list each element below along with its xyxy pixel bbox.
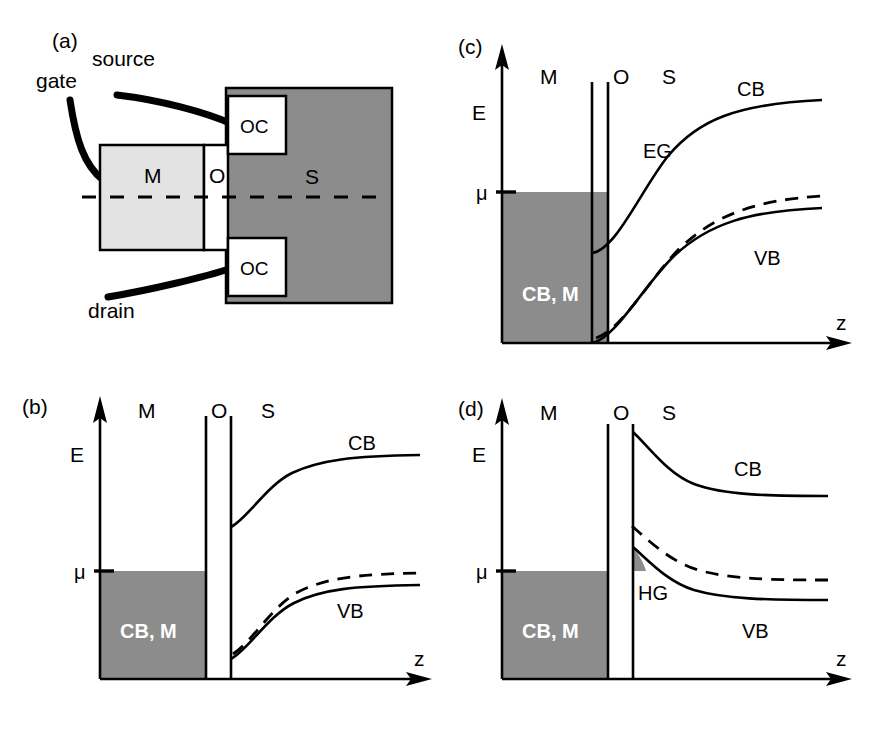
conduction-band-label-b: CB bbox=[348, 432, 376, 454]
oxide-region-label: O bbox=[209, 164, 225, 187]
region-label-s-d: S bbox=[662, 401, 676, 424]
conduction-band-curve-b bbox=[231, 455, 420, 527]
x-axis-label-b: z bbox=[414, 647, 425, 670]
region-label-m-b: M bbox=[138, 399, 156, 422]
y-axis-label-c: E bbox=[472, 101, 486, 124]
panel-a-label: (a) bbox=[52, 29, 78, 52]
electron-gas-label-c: EG bbox=[643, 140, 672, 162]
mu-label-d: μ bbox=[476, 561, 488, 583]
gate-wire bbox=[70, 100, 103, 180]
panel-b-band-diagram: (b) E z μ M O bbox=[0, 366, 436, 732]
region-label-o-d: O bbox=[613, 401, 629, 424]
valence-band-label-d: VB bbox=[742, 620, 769, 642]
panel-c-label: (c) bbox=[458, 35, 483, 58]
drain-wire bbox=[108, 268, 232, 297]
x-axis-label-c: z bbox=[836, 311, 847, 334]
source-wire bbox=[117, 95, 232, 124]
region-label-o-b: O bbox=[211, 399, 227, 422]
region-label-o-c: O bbox=[613, 65, 629, 88]
hole-gas-label-d: HG bbox=[638, 582, 668, 604]
conduction-band-curve-c bbox=[592, 100, 822, 253]
conduction-band-label-d: CB bbox=[734, 458, 762, 480]
panel-b-label: (b) bbox=[22, 395, 48, 418]
region-label-s-c: S bbox=[662, 65, 676, 88]
mu-dashed-curve-c bbox=[596, 196, 822, 338]
valence-band-curve-b bbox=[231, 585, 420, 659]
gate-label: gate bbox=[36, 69, 77, 92]
filled-band-label-d: CB, M bbox=[522, 620, 579, 642]
region-label-m-c: M bbox=[540, 65, 558, 88]
valence-band-label-b: VB bbox=[337, 600, 364, 622]
figure-root: (a) gate source drain M bbox=[0, 0, 872, 732]
mu-label-c: μ bbox=[476, 182, 488, 204]
ohmic-contact-drain-label: OC bbox=[240, 258, 269, 279]
valence-band-label-c: VB bbox=[754, 247, 781, 269]
panel-d-label: (d) bbox=[458, 397, 484, 420]
ohmic-contact-source-label: OC bbox=[240, 116, 269, 137]
panel-a-device-schematic: (a) gate source drain M bbox=[0, 0, 436, 366]
panel-d-band-diagram: (d) E z μ bbox=[436, 366, 872, 732]
metal-region-label: M bbox=[144, 164, 162, 187]
conduction-band-label-c: CB bbox=[737, 78, 765, 100]
panel-c-band-diagram: (c) E z μ bbox=[436, 0, 872, 366]
region-label-s-b: S bbox=[261, 399, 275, 422]
filled-band-label-b: CB, M bbox=[120, 620, 177, 642]
y-axis-label-d: E bbox=[472, 443, 486, 466]
drain-label: drain bbox=[88, 299, 135, 322]
conduction-band-curve-d bbox=[633, 432, 828, 496]
mu-label-b: μ bbox=[74, 561, 86, 583]
source-label: source bbox=[92, 47, 155, 70]
semiconductor-region-label: S bbox=[305, 165, 319, 188]
filled-band-label-c: CB, M bbox=[522, 283, 579, 305]
y-axis-label-b: E bbox=[70, 443, 84, 466]
hole-gas-region-d bbox=[633, 547, 646, 571]
x-axis-label-d: z bbox=[836, 647, 847, 670]
region-label-m-d: M bbox=[540, 401, 558, 424]
